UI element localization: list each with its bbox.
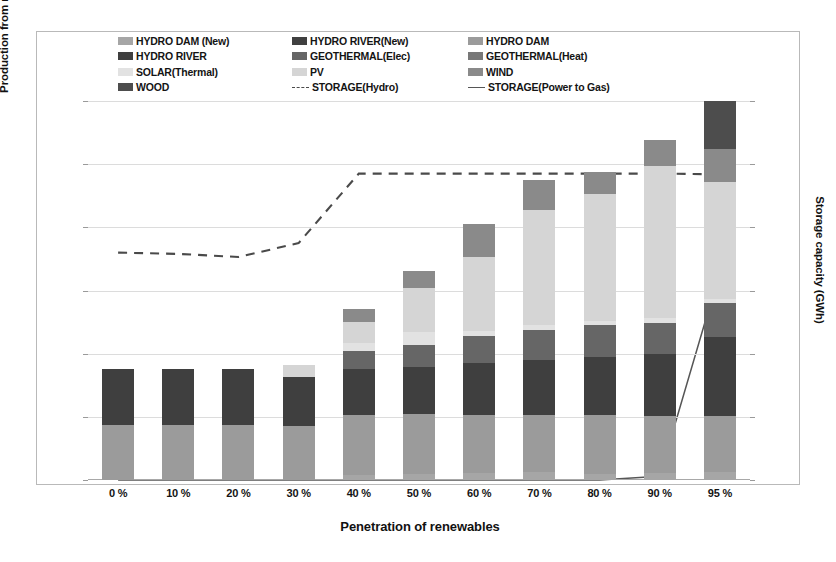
y-tick-mark-right	[750, 480, 755, 481]
bar-segment[interactable]	[584, 321, 616, 326]
legend-label: SOLAR(Thermal)	[136, 66, 218, 78]
bar-segment[interactable]	[463, 331, 495, 336]
bar-segment[interactable]	[523, 210, 555, 325]
legend-swatch-icon	[292, 37, 307, 45]
legend-item[interactable]: HYDRO DAM	[468, 33, 668, 49]
bar-segment[interactable]	[584, 172, 616, 194]
bar-stack[interactable]	[584, 101, 616, 480]
legend-item[interactable]: WOOD	[118, 80, 318, 96]
legend-item[interactable]: GEOTHERMAL(Heat)	[468, 49, 668, 65]
legend-item[interactable]: SOLAR(Thermal)	[118, 64, 318, 80]
bar-stack[interactable]	[463, 101, 495, 480]
bar-stack[interactable]	[162, 101, 194, 480]
bar-segment[interactable]	[283, 377, 315, 426]
bar-segment[interactable]	[222, 369, 254, 424]
bar-segment[interactable]	[644, 166, 676, 318]
x-tick-label: 20 %	[208, 487, 268, 499]
bar-segment[interactable]	[584, 325, 616, 357]
chart-legend: HYDRO DAM (New)HYDRO RIVERSOLAR(Thermal)…	[118, 33, 738, 95]
bar-segment[interactable]	[644, 140, 676, 167]
legend-item[interactable]: GEOTHERMAL(Elec)	[292, 49, 492, 65]
bar-segment[interactable]	[644, 473, 676, 480]
legend-label: HYDRO DAM (New)	[136, 35, 229, 47]
bar-segment[interactable]	[403, 474, 435, 480]
bar-segment[interactable]	[704, 416, 736, 473]
bar-segment[interactable]	[523, 330, 555, 360]
bar-segment[interactable]	[403, 414, 435, 474]
legend-item[interactable]: HYDRO RIVER	[118, 49, 318, 65]
bar-segment[interactable]	[463, 224, 495, 257]
bar-segment[interactable]	[403, 367, 435, 414]
bar-segment[interactable]	[523, 360, 555, 415]
bar-segment[interactable]	[162, 369, 194, 424]
x-tick-label: 70 %	[509, 487, 569, 499]
bar-segment[interactable]	[704, 303, 736, 336]
bar-segment[interactable]	[463, 257, 495, 331]
legend-swatch-icon	[118, 37, 133, 45]
bar-stack[interactable]	[222, 101, 254, 480]
y-tick-mark-right	[750, 164, 755, 165]
bar-segment[interactable]	[644, 318, 676, 323]
legend-label: STORAGE(Power to Gas)	[488, 81, 610, 93]
bar-stack[interactable]	[403, 101, 435, 480]
bar-segment[interactable]	[403, 271, 435, 288]
bar-segment[interactable]	[523, 472, 555, 480]
legend-label: HYDRO RIVER	[136, 50, 207, 62]
bar-stack[interactable]	[283, 101, 315, 480]
bar-segment[interactable]	[584, 357, 616, 415]
legend-item[interactable]: HYDRO DAM (New)	[118, 33, 318, 49]
bar-segment[interactable]	[704, 149, 736, 182]
legend-item[interactable]: WIND	[468, 64, 668, 80]
bar-segment[interactable]	[463, 473, 495, 480]
bar-segment[interactable]	[644, 354, 676, 416]
bar-segment[interactable]	[283, 365, 315, 378]
bar-segment[interactable]	[343, 322, 375, 343]
legend-item[interactable]: STORAGE(Power to Gas)	[468, 80, 668, 96]
bar-segment[interactable]	[523, 325, 555, 330]
bar-stack[interactable]	[343, 101, 375, 480]
bar-segment[interactable]	[162, 425, 194, 480]
bar-segment[interactable]	[523, 415, 555, 472]
legend-item[interactable]: PV	[292, 64, 492, 80]
bar-segment[interactable]	[343, 309, 375, 322]
bar-segment[interactable]	[704, 182, 736, 299]
x-tick-label: 30 %	[269, 487, 329, 499]
legend-column-1: HYDRO DAM (New)HYDRO RIVERSOLAR(Thermal)…	[118, 33, 318, 95]
bar-segment[interactable]	[403, 288, 435, 332]
bar-stack[interactable]	[523, 101, 555, 480]
bar-segment[interactable]	[704, 472, 736, 480]
legend-item[interactable]: HYDRO RIVER(New)	[292, 33, 492, 49]
bar-segment[interactable]	[283, 426, 315, 480]
bar-segment[interactable]	[644, 323, 676, 355]
bar-segment[interactable]	[102, 425, 134, 480]
legend-swatch-icon	[118, 52, 133, 60]
bar-segment[interactable]	[704, 101, 736, 148]
bar-segment[interactable]	[343, 343, 375, 351]
bar-segment[interactable]	[463, 336, 495, 363]
bar-segment[interactable]	[704, 337, 736, 416]
bar-segment[interactable]	[343, 415, 375, 475]
bar-segment[interactable]	[704, 299, 736, 304]
bar-segment[interactable]	[463, 363, 495, 415]
legend-item[interactable]: STORAGE(Hydro)	[292, 80, 492, 96]
bar-segment[interactable]	[343, 351, 375, 370]
bar-segment[interactable]	[102, 369, 134, 424]
bar-segment[interactable]	[523, 180, 555, 210]
bar-segment[interactable]	[584, 194, 616, 320]
x-tick-label: 50 %	[389, 487, 449, 499]
bar-segment[interactable]	[403, 345, 435, 367]
bar-segment[interactable]	[403, 332, 435, 345]
y-tick-mark-left	[83, 480, 88, 481]
bar-segment[interactable]	[584, 474, 616, 480]
bar-segment[interactable]	[584, 415, 616, 473]
bar-stack[interactable]	[102, 101, 134, 480]
bar-segment[interactable]	[343, 369, 375, 415]
bar-stack[interactable]	[644, 101, 676, 480]
bar-segment[interactable]	[463, 415, 495, 473]
x-tick-label: 90 %	[630, 487, 690, 499]
bar-segment[interactable]	[644, 416, 676, 473]
bar-segment[interactable]	[343, 475, 375, 480]
bar-segment[interactable]	[222, 425, 254, 480]
plot-area: 0200004000060000800001000001200000500100…	[88, 101, 750, 480]
bar-stack[interactable]	[704, 101, 736, 480]
